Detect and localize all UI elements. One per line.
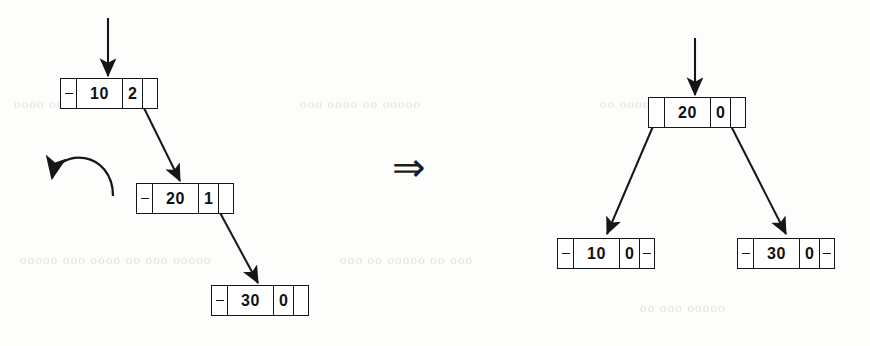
bleed-text: ooooo ooo oooo oo ooo ooooo	[20, 252, 212, 268]
key-cell: 30	[753, 239, 799, 268]
left-pointer-cell	[61, 79, 76, 108]
arrow-layer	[0, 0, 870, 346]
right-pointer-cell	[142, 79, 157, 108]
rotation-arrow-icon	[52, 158, 113, 196]
right-pointer-cell	[819, 239, 834, 268]
left-pointer-cell	[558, 239, 573, 268]
right-pointer-cell	[639, 239, 654, 268]
null-pointer-icon	[643, 253, 651, 255]
key-cell: 20	[152, 184, 198, 213]
after-node-30: 30 0	[737, 238, 835, 269]
balance-cell: 2	[122, 79, 142, 108]
right-pointer-cell	[730, 98, 745, 127]
after-link-20-to-10	[607, 124, 654, 234]
before-node-30: 30 0	[211, 285, 309, 316]
null-pointer-icon	[216, 300, 224, 302]
right-pointer-cell	[218, 184, 233, 213]
after-node-20: 20 0	[648, 97, 746, 128]
left-pointer-cell	[137, 184, 152, 213]
bleed-text: oo ooo ooooo	[640, 300, 726, 316]
null-pointer-icon	[823, 253, 831, 255]
rotation-figure: oooo ooo oooo oo ooo ooo oooo oo ooooo o…	[0, 0, 870, 346]
bleed-text: ooo oo ooooo oo ooo	[340, 252, 473, 268]
left-pointer-cell	[649, 98, 664, 127]
before-node-10: 10 2	[60, 78, 158, 109]
before-link-20-to-30	[218, 209, 258, 283]
right-pointer-cell	[293, 286, 308, 315]
key-cell: 30	[227, 286, 273, 315]
before-node-20: 20 1	[136, 183, 234, 214]
null-pointer-icon	[141, 198, 149, 200]
key-cell: 10	[76, 79, 122, 108]
null-pointer-icon	[65, 93, 73, 95]
after-link-20-to-30	[730, 124, 786, 234]
balance-cell: 0	[273, 286, 293, 315]
key-cell: 20	[664, 98, 710, 127]
balance-cell: 0	[710, 98, 730, 127]
left-pointer-cell	[738, 239, 753, 268]
key-cell: 10	[573, 239, 619, 268]
after-node-10: 10 0	[557, 238, 655, 269]
null-pointer-icon	[742, 253, 750, 255]
implies-arrow-icon: ⇒	[392, 148, 426, 188]
before-link-10-to-20	[142, 104, 180, 181]
null-pointer-icon	[562, 253, 570, 255]
balance-cell: 0	[799, 239, 819, 268]
bleed-text: ooo oooo oo ooooo	[300, 96, 421, 112]
left-pointer-cell	[212, 286, 227, 315]
balance-cell: 1	[198, 184, 218, 213]
balance-cell: 0	[619, 239, 639, 268]
